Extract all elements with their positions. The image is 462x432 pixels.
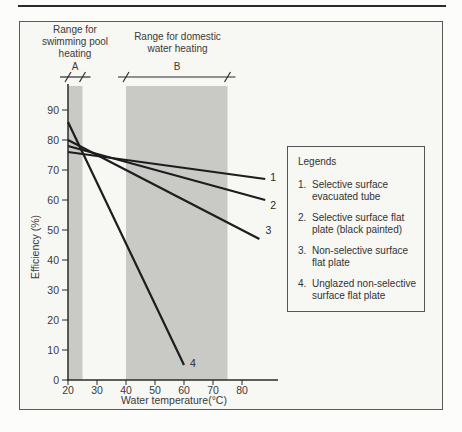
legend-item-2: 2. Selective surface flat plate (black p…	[298, 212, 419, 237]
y-axis-label: Efficiency (%)	[29, 215, 41, 279]
x-tick-label: 20	[62, 384, 74, 396]
range-a-line1: Range for	[27, 24, 123, 36]
legend-item-2-text: Selective surface flat plate (black pain…	[312, 212, 419, 237]
legend-box: Legends 1. Selective surface evacuated t…	[287, 146, 425, 312]
y-tick-label: 70	[47, 164, 59, 176]
y-tick-label: 80	[47, 134, 59, 146]
legend-title: Legends	[298, 156, 419, 169]
legend-item-3-text: Non-selective surface flat plate	[312, 245, 419, 270]
series-label-3: 3	[265, 224, 271, 236]
legend-item-4: 4. Unglazed non-selective surface flat p…	[298, 278, 419, 303]
dim-label-a: A	[69, 61, 81, 72]
legend-item-3-number: 3.	[298, 245, 312, 270]
range-b-line1: Range for domestic	[115, 31, 240, 43]
legend-item-4-text: Unglazed non-selective surface flat plat…	[312, 278, 419, 303]
dim-label-b: B	[171, 61, 183, 72]
legend-item-1: 1. Selective surface evacuated tube	[298, 179, 419, 204]
range-b-line2: water heating	[115, 43, 240, 55]
scanned-figure-page: 010203040506070809020304050607080Water t…	[0, 0, 462, 432]
range-a-line2: swimming pool	[27, 36, 123, 48]
series-label-1: 1	[270, 171, 276, 183]
series-label-2: 2	[270, 199, 276, 211]
y-tick-label: 10	[47, 344, 59, 356]
legend-item-3: 3. Non-selective surface flat plate	[298, 245, 419, 270]
y-tick-label: 50	[47, 224, 59, 236]
range-a-line3: heating	[27, 48, 123, 60]
band-a	[68, 86, 83, 380]
y-tick-label: 60	[47, 194, 59, 206]
x-axis-label: Water temperature(°C)	[121, 394, 227, 406]
series-label-4: 4	[190, 357, 196, 369]
y-tick-label: 90	[47, 104, 59, 116]
x-tick-label: 30	[91, 384, 103, 396]
x-tick-label: 80	[236, 384, 248, 396]
legend-item-4-number: 4.	[298, 278, 312, 303]
band-b	[126, 86, 228, 380]
legend-item-1-number: 1.	[298, 179, 312, 204]
range-a-annotation: Range for swimming pool heating	[27, 24, 123, 60]
range-b-annotation: Range for domestic water heating	[115, 31, 240, 55]
legend-item-1-text: Selective surface evacuated tube	[312, 179, 419, 204]
y-tick-label: 40	[47, 254, 59, 266]
y-tick-label: 30	[47, 284, 59, 296]
y-tick-label: 0	[53, 374, 59, 386]
y-tick-label: 20	[47, 314, 59, 326]
legend-item-2-number: 2.	[298, 212, 312, 237]
